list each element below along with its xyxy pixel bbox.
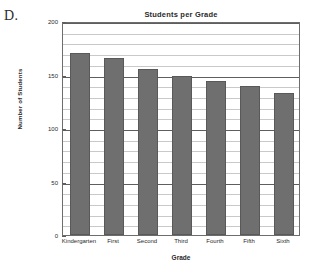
x-axis-tick-label: Kindergarten xyxy=(62,238,96,244)
y-axis-title: Number of Students xyxy=(17,51,23,147)
y-axis-tick-label: 100 xyxy=(36,126,58,132)
x-axis-tick-label: First xyxy=(107,238,119,244)
figure-label: D. xyxy=(4,8,19,24)
y-axis-tick-mark xyxy=(62,76,66,77)
bar xyxy=(104,58,124,235)
y-axis-tick-labels: 050100150200 xyxy=(36,22,58,236)
bar xyxy=(138,69,158,235)
bar xyxy=(274,93,294,235)
x-axis-tick-label: Third xyxy=(174,238,188,244)
y-axis-tick-label: 0 xyxy=(36,233,58,239)
bar xyxy=(206,81,226,235)
y-axis-tick-mark xyxy=(62,22,66,23)
chart-title: Students per Grade xyxy=(62,10,300,19)
bar xyxy=(240,86,260,235)
y-axis-tick-label: 50 xyxy=(36,180,58,186)
y-axis-tick-label: 150 xyxy=(36,73,58,79)
plot-area xyxy=(62,22,300,236)
bar xyxy=(70,53,90,235)
y-axis-tick-mark xyxy=(62,236,66,237)
y-axis-tick-mark xyxy=(62,129,66,130)
x-axis-tick-labels: KindergartenFirstSecondThirdFourthFifthS… xyxy=(62,238,300,250)
y-axis-tick-label: 200 xyxy=(36,19,58,25)
bar-series xyxy=(63,23,299,235)
bar xyxy=(172,76,192,235)
x-axis-tick-label: Sixth xyxy=(276,238,289,244)
x-axis-tick-label: Fourth xyxy=(206,238,223,244)
y-axis-tick-mark xyxy=(62,183,66,184)
x-axis-tick-label: Second xyxy=(137,238,157,244)
y-axis-tick-marks xyxy=(62,22,66,236)
x-axis-tick-label: Fifth xyxy=(243,238,255,244)
x-axis-title: Grade xyxy=(62,254,300,261)
